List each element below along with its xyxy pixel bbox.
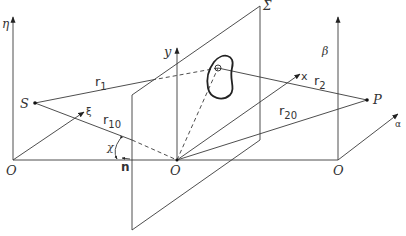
aperture-shape	[207, 56, 232, 99]
origin-left-label: O	[6, 163, 17, 178]
xi-axis	[13, 112, 84, 160]
alpha-label: α	[395, 119, 401, 129]
r20-label: r20	[279, 103, 297, 121]
chi-label: χ	[106, 141, 115, 154]
x-axis-label: x	[301, 70, 308, 83]
alpha-axis	[338, 114, 398, 160]
r1-label: r1	[95, 74, 107, 92]
r10-label: r10	[103, 112, 121, 130]
origin-right-label: O	[333, 163, 344, 178]
normal-vector	[122, 158, 130, 159]
sigma-label: Σ	[262, 0, 272, 13]
center-origin-point	[176, 159, 179, 162]
y-axis-label: y	[163, 44, 172, 59]
source-point	[33, 101, 37, 105]
ray-r10-hidden	[132, 140, 177, 160]
ray-r1-visible	[35, 80, 152, 103]
ray-r2	[218, 68, 367, 100]
eta-label: η	[2, 17, 10, 31]
diffraction-diagram: η ξ S O y Σ O x β P α O r1 r2 r10 r20 χ …	[0, 0, 406, 236]
chi-angle-arc	[115, 139, 120, 159]
r2-label: r2	[314, 73, 326, 91]
xi-label: ξ	[86, 106, 92, 117]
aperture-plane	[132, 6, 260, 230]
normal-label: n	[121, 160, 130, 174]
beta-label: β	[321, 45, 328, 58]
source-label: S	[20, 96, 29, 111]
observation-point	[365, 98, 369, 102]
observation-label: P	[372, 92, 382, 107]
origin-center-label: O	[170, 163, 181, 178]
ray-r20	[177, 100, 367, 160]
